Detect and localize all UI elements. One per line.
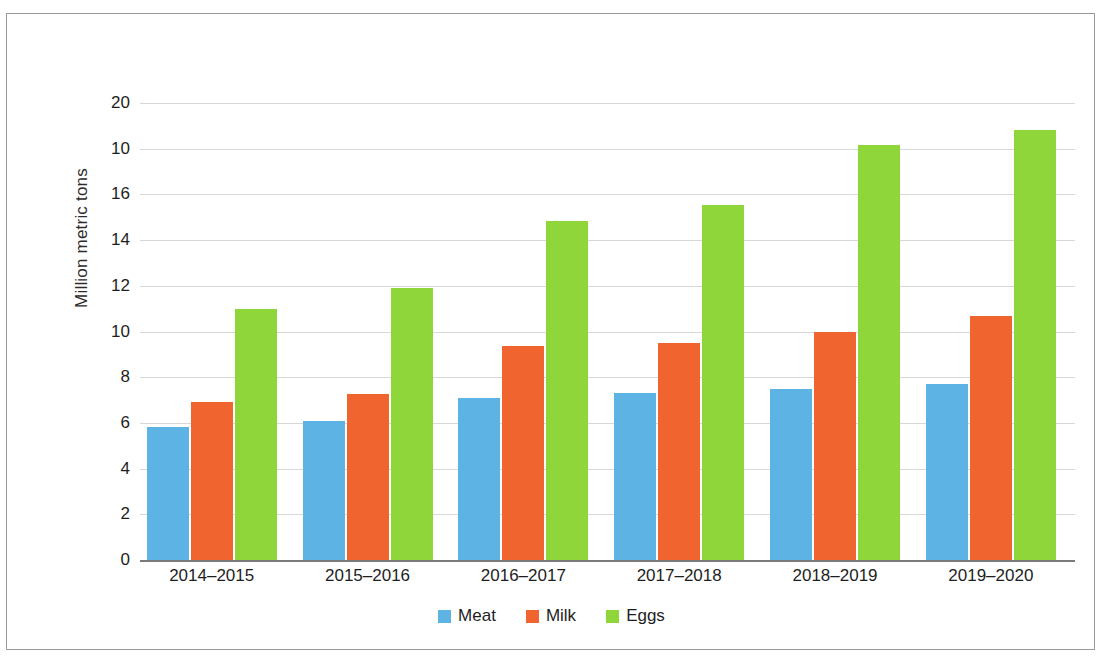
chart-legend: MeatMilkEggs	[0, 606, 1103, 626]
x-tick-label: 2017–2018	[637, 566, 722, 586]
y-tick-label: 6	[86, 413, 130, 433]
y-tick-label: 0	[86, 550, 130, 570]
bar-group	[303, 103, 433, 560]
legend-item-meat[interactable]: Meat	[438, 606, 496, 626]
y-tick-label: 10	[86, 322, 130, 342]
legend-item-milk[interactable]: Milk	[526, 606, 576, 626]
y-tick-label: 12	[86, 276, 130, 296]
bar-milk-2016-2017[interactable]	[502, 346, 544, 560]
legend-label: Meat	[458, 606, 496, 626]
x-tick-label: 2014–2015	[169, 566, 254, 586]
y-axis-tick-labels: 20101614121086420	[86, 103, 130, 560]
bar-meat-2018-2019[interactable]	[770, 389, 812, 560]
bar-meat-2014-2015[interactable]	[147, 427, 189, 560]
bar-meat-2016-2017[interactable]	[458, 398, 500, 560]
bar-group	[147, 103, 277, 560]
bar-eggs-2019-2020[interactable]	[1014, 130, 1056, 560]
x-tick-label: 2018–2019	[792, 566, 877, 586]
legend-swatch-icon	[438, 610, 451, 623]
grouped-bar-chart: Million metric tons 20101614121086420 20…	[0, 0, 1103, 660]
bar-group	[770, 103, 900, 560]
x-tick-label: 2015–2016	[325, 566, 410, 586]
bar-group	[458, 103, 588, 560]
y-tick-label: 10	[86, 139, 130, 159]
bar-eggs-2018-2019[interactable]	[858, 145, 900, 560]
y-tick-label: 8	[86, 367, 130, 387]
legend-label: Milk	[546, 606, 576, 626]
legend-swatch-icon	[606, 610, 619, 623]
x-axis-tick-labels: 2014–20152015–20162016–20172017–20182018…	[140, 566, 1075, 596]
bar-meat-2017-2018[interactable]	[614, 393, 656, 560]
bar-milk-2017-2018[interactable]	[658, 343, 700, 560]
bar-milk-2014-2015[interactable]	[191, 402, 233, 560]
bars-layer	[140, 103, 1075, 560]
plot-area	[140, 103, 1075, 560]
legend-label: Eggs	[626, 606, 665, 626]
y-tick-label: 14	[86, 230, 130, 250]
x-tick-label: 2016–2017	[481, 566, 566, 586]
bar-meat-2019-2020[interactable]	[926, 384, 968, 560]
y-tick-label: 4	[86, 459, 130, 479]
legend-item-eggs[interactable]: Eggs	[606, 606, 665, 626]
y-tick-label: 2	[86, 504, 130, 524]
axis-baseline	[140, 560, 1075, 562]
legend-swatch-icon	[526, 610, 539, 623]
bar-eggs-2015-2016[interactable]	[391, 288, 433, 560]
bar-milk-2019-2020[interactable]	[970, 316, 1012, 560]
bar-group	[926, 103, 1056, 560]
bar-meat-2015-2016[interactable]	[303, 421, 345, 560]
bar-milk-2015-2016[interactable]	[347, 394, 389, 560]
bar-group	[614, 103, 744, 560]
y-tick-label: 20	[86, 93, 130, 113]
bar-eggs-2014-2015[interactable]	[235, 309, 277, 560]
bar-eggs-2017-2018[interactable]	[702, 205, 744, 560]
y-tick-label: 16	[86, 184, 130, 204]
bar-milk-2018-2019[interactable]	[814, 332, 856, 561]
x-tick-label: 2019–2020	[948, 566, 1033, 586]
bar-eggs-2016-2017[interactable]	[546, 221, 588, 560]
page-canvas: Million metric tons 20101614121086420 20…	[0, 0, 1103, 660]
